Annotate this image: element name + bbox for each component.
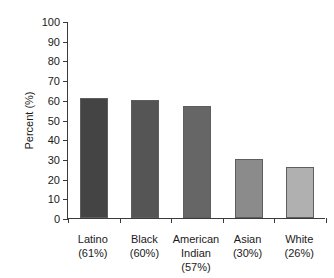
bar-asian: [235, 159, 263, 218]
x-axis-label-line: (60%): [119, 246, 171, 260]
x-axis-label-latino: Latino(61%): [67, 232, 119, 260]
x-axis-label-line: Black: [119, 232, 171, 246]
x-axis-label-american-indian: AmericanIndian(57%): [170, 232, 222, 274]
y-axis-tick-label: 30: [48, 154, 60, 166]
bar-black: [131, 100, 159, 218]
y-axis-tick-label: 20: [48, 174, 60, 186]
x-axis-tick: [171, 218, 172, 223]
y-axis-tick: [63, 22, 68, 23]
y-axis-tick: [63, 140, 68, 141]
y-axis-tick: [63, 42, 68, 43]
bar-american-indian: [183, 106, 211, 218]
x-axis-label-line: American: [170, 232, 222, 246]
y-axis-tick-label: 10: [48, 193, 60, 205]
x-axis-label-line: (57%): [170, 260, 222, 274]
y-axis-tick: [63, 81, 68, 82]
y-axis-tick-label: 50: [48, 115, 60, 127]
bar-chart: Percent (%) 0102030405060708090100 Latin…: [0, 0, 334, 278]
x-axis-tick: [274, 218, 275, 223]
x-axis-label-black: Black(60%): [119, 232, 171, 260]
x-axis-label-asian: Asian(30%): [222, 232, 274, 260]
y-axis-tick-label: 100: [42, 16, 60, 28]
bar-latino: [80, 98, 108, 218]
y-axis-tick: [63, 199, 68, 200]
x-axis-label-line: White: [273, 232, 325, 246]
bar-white: [286, 167, 314, 218]
y-axis-tick: [63, 180, 68, 181]
y-axis-tick: [63, 61, 68, 62]
x-axis-label-line: Indian: [170, 246, 222, 260]
x-axis-label-line: Asian: [222, 232, 274, 246]
y-axis-tick-label: 80: [48, 55, 60, 67]
y-axis-tick: [63, 160, 68, 161]
x-axis-label-line: Latino: [67, 232, 119, 246]
y-axis-tick-label: 70: [48, 75, 60, 87]
y-axis-tick-label: 40: [48, 134, 60, 146]
y-axis-tick-label: 0: [54, 213, 60, 225]
y-axis-tick-label: 90: [48, 36, 60, 48]
y-axis-tick: [63, 121, 68, 122]
y-axis-tick: [63, 101, 68, 102]
x-axis-label-line: (61%): [67, 246, 119, 260]
x-axis-label-line: (26%): [273, 246, 325, 260]
x-axis-label-white: White(26%): [273, 232, 325, 260]
x-axis-tick: [68, 218, 69, 223]
x-axis-label-line: (30%): [222, 246, 274, 260]
y-axis-tick-label: 60: [48, 95, 60, 107]
y-axis-title: Percent (%): [22, 22, 36, 219]
x-axis-tick: [223, 218, 224, 223]
x-axis-tick: [326, 218, 327, 223]
x-axis-tick: [120, 218, 121, 223]
plot-area: 0102030405060708090100: [67, 22, 325, 219]
